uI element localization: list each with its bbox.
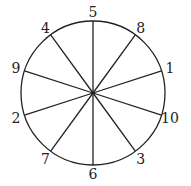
sector-label: 6 <box>89 166 98 182</box>
sector-dividers <box>25 21 162 165</box>
sector-label: 2 <box>12 110 21 126</box>
sector-divider <box>25 71 94 93</box>
sector-divider <box>93 35 135 93</box>
sector-label: 1 <box>166 60 175 76</box>
sector-divider <box>51 35 93 93</box>
sector-label: 7 <box>41 151 50 167</box>
sector-divider <box>93 93 135 151</box>
sector-label: 4 <box>41 20 50 36</box>
sector-divider <box>93 71 162 93</box>
spinner-diagram: 58110367294 <box>0 0 191 186</box>
sector-labels: 58110367294 <box>12 4 179 182</box>
sector-label: 9 <box>12 60 21 76</box>
sector-label: 8 <box>136 20 145 36</box>
sector-divider <box>93 93 162 115</box>
sector-label: 5 <box>89 4 98 20</box>
sector-divider <box>25 93 94 115</box>
sector-label: 10 <box>161 110 179 126</box>
sector-label: 3 <box>136 151 145 167</box>
sector-divider <box>51 93 93 151</box>
